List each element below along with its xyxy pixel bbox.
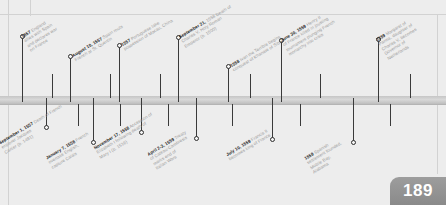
timeline-tick [120, 104, 121, 126]
timeline-tick [320, 74, 321, 98]
event-stem [196, 98, 197, 137]
timeline-tick [78, 104, 79, 126]
event-label: 1559 Margaret ofParma, daughter ofCharle… [375, 17, 423, 61]
event-label: 1557 Englandallies with Spainand declare… [20, 17, 60, 53]
timeline-tick [250, 74, 251, 98]
event-label: September 21, 1558 Death ofCharles V, Ho… [178, 4, 238, 49]
event-marker-dot[interactable] [194, 136, 199, 141]
event-label: 1557 Portuguese takepossession of Macau,… [120, 14, 174, 52]
event-label: January 7, 1558 Frenchovertake English,c… [45, 131, 95, 170]
event-stem [93, 98, 94, 141]
page-number: 189 [390, 177, 446, 205]
event-stem [70, 58, 71, 102]
event-stem [178, 39, 179, 102]
timeline-tick [168, 104, 169, 126]
event-stem [228, 68, 229, 102]
timeline-tick [110, 74, 111, 98]
event-label: July 10, 1559 Francis IIbecomes king of … [225, 128, 272, 162]
event-stem [378, 41, 379, 102]
timeline-tick [52, 74, 53, 98]
event-stem [281, 42, 282, 102]
timeline-tick [410, 74, 411, 98]
timeline-page: 1557 Englandallies with Spainand declare… [0, 0, 446, 205]
event-label: 1558 Ivan the Terrible beginsconquest of… [229, 34, 284, 73]
timeline-tick [160, 74, 161, 98]
page-margin-rule-right [437, 14, 438, 174]
event-stem [119, 47, 120, 102]
event-stem [353, 98, 354, 141]
timeline-tick [232, 104, 233, 126]
event-stem [22, 38, 23, 102]
event-label: 1559 Spanishsettlement founded,Mobile Ba… [303, 136, 348, 175]
event-marker-dot[interactable] [351, 140, 356, 145]
event-label: April 2-3, 1559 Treatyof Cateau-Cambresi… [146, 130, 195, 171]
event-label: June 30, 1559 Henry IIof France killed i… [279, 10, 338, 57]
event-stem [272, 98, 273, 138]
timeline-tick [390, 104, 391, 126]
timeline-bar [0, 96, 446, 104]
timeline-tick [300, 104, 301, 126]
